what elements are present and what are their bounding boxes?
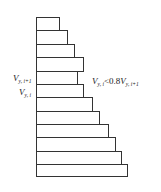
story-shear-bar-1 — [37, 18, 60, 31]
story-shear-bar-2 — [37, 31, 68, 45]
story-shear-bar-3 — [37, 45, 75, 58]
story-shear-bar-8 — [37, 112, 100, 125]
subscript: y, i+1 — [126, 81, 139, 87]
story-shear-bar-10 — [37, 138, 116, 152]
story-shear-bar-12 — [37, 165, 128, 177]
label-upper-story-shear: Vy, i+1 — [13, 74, 31, 85]
inequality-operator: <0.8 — [104, 76, 120, 86]
story-shear-bar-11 — [37, 152, 122, 165]
story-shear-bar-5 — [37, 72, 78, 85]
label-soft-story-condition: Vy, i<0.8Vy, i+1 — [92, 77, 139, 88]
story-shear-bar-6 — [37, 85, 84, 98]
story-shear-bar-7 — [37, 98, 93, 112]
subscript: y, i — [25, 92, 31, 98]
story-shear-bar-9 — [37, 125, 109, 138]
story-shear-bar-4 — [37, 58, 84, 72]
subscript: y, i+1 — [19, 78, 32, 84]
label-lower-story-shear: Vy, i — [19, 88, 31, 99]
